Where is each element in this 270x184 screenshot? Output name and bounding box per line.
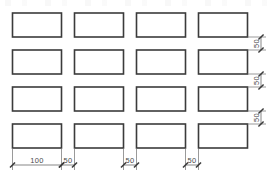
- rect-row-3: [13, 87, 248, 111]
- part-rect: [199, 87, 248, 111]
- dimension-label: 50: [187, 156, 196, 165]
- part-rect: [199, 13, 248, 37]
- drawing-svg: 100 50 50 50: [0, 0, 270, 184]
- rect-row-4: [13, 124, 248, 148]
- dimension-100: 100: [10, 156, 64, 167]
- part-rect: [13, 124, 62, 148]
- part-rect: [13, 50, 62, 74]
- horizontal-dimension-group: 100 50 50 50: [10, 148, 201, 170]
- dimension-label: 50: [252, 76, 261, 85]
- part-rect: [137, 87, 186, 111]
- vertical-dimension-group: 50 50 50: [248, 35, 267, 127]
- rectangle-grid: [13, 13, 248, 148]
- rect-row-2: [13, 50, 248, 74]
- part-rect: [199, 50, 248, 74]
- dimension-label: 50: [125, 156, 134, 165]
- part-rect: [137, 13, 186, 37]
- dimension-label: 100: [30, 156, 44, 165]
- part-rect: [199, 124, 248, 148]
- part-rect: [137, 50, 186, 74]
- part-rect: [13, 13, 62, 37]
- part-rect: [75, 124, 124, 148]
- dimension-label: 50: [63, 156, 72, 165]
- part-rect: [13, 87, 62, 111]
- rect-row-1: [13, 13, 248, 37]
- dimension-label: 50: [252, 39, 261, 48]
- dimension-label: 50: [252, 113, 261, 122]
- technical-drawing-canvas: 100 50 50 50: [0, 0, 270, 184]
- part-rect: [137, 124, 186, 148]
- part-rect: [75, 87, 124, 111]
- part-rect: [75, 50, 124, 74]
- part-rect: [75, 13, 124, 37]
